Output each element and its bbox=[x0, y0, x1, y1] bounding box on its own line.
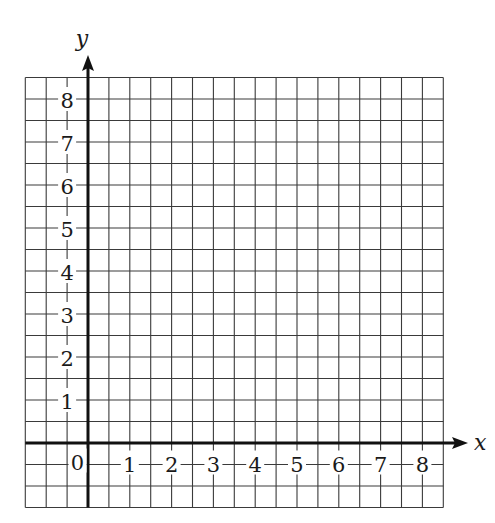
y-axis-label: y bbox=[75, 26, 89, 51]
x-tick-label: 2 bbox=[165, 453, 178, 477]
x-tick-label: 3 bbox=[207, 453, 220, 477]
coordinate-grid: xy 12345678123456780 bbox=[0, 0, 495, 523]
x-tick-label: 5 bbox=[290, 453, 303, 477]
axes: xy bbox=[25, 26, 487, 508]
x-axis-label: x bbox=[474, 430, 487, 455]
y-tick-label: 7 bbox=[60, 132, 73, 156]
y-tick-label: 4 bbox=[60, 261, 73, 285]
x-tick-label: 1 bbox=[123, 453, 136, 477]
origin-label: 0 bbox=[71, 451, 84, 475]
y-tick-label: 5 bbox=[60, 218, 73, 242]
x-tick-label: 6 bbox=[332, 453, 345, 477]
x-tick-label: 4 bbox=[249, 453, 262, 477]
tick-labels: 12345678123456780 bbox=[58, 87, 431, 477]
y-tick-label: 3 bbox=[60, 304, 73, 328]
y-tick-label: 2 bbox=[60, 347, 73, 371]
x-tick-label: 8 bbox=[416, 453, 429, 477]
x-tick-label: 7 bbox=[374, 453, 387, 477]
y-tick-label: 6 bbox=[60, 175, 73, 199]
y-tick-label: 8 bbox=[60, 89, 73, 113]
y-tick-label: 1 bbox=[60, 390, 73, 414]
